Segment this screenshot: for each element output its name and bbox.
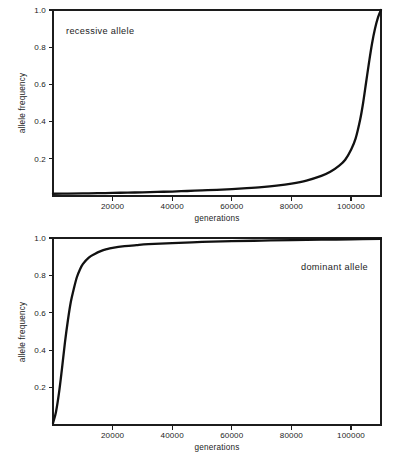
y-axis-title: allele frequency bbox=[18, 72, 27, 133]
x-axis-ticks bbox=[113, 425, 351, 430]
x-axis-title: generations bbox=[195, 214, 240, 223]
x-tick-label: 20000 bbox=[101, 202, 125, 211]
x-tick-label: 40000 bbox=[161, 431, 185, 440]
x-tick-label: 80000 bbox=[280, 431, 304, 440]
y-tick-label: 0.6 bbox=[34, 80, 46, 89]
x-tick-label: 40000 bbox=[161, 202, 185, 211]
recessive-allele-plot: 1.0 0.8 0.6 0.4 0.2 20000 40000 60000 80… bbox=[0, 0, 398, 228]
y-axis-ticks bbox=[49, 10, 54, 159]
y-tick-label: 0.8 bbox=[34, 43, 46, 52]
dominant-allele-plot: 1.0 0.8 0.6 0.4 0.2 20000 40000 60000 80… bbox=[0, 228, 398, 455]
x-tick-label: 20000 bbox=[101, 431, 125, 440]
x-tick-label: 80000 bbox=[280, 202, 304, 211]
y-tick-label: 0.8 bbox=[34, 271, 46, 280]
panel-annotation-recessive: recessive allele bbox=[66, 26, 134, 36]
x-tick-label: 60000 bbox=[220, 202, 244, 211]
y-tick-label: 1.0 bbox=[34, 234, 46, 243]
y-axis-tick-labels: 1.0 0.8 0.6 0.4 0.2 bbox=[34, 234, 46, 393]
x-tick-label: 60000 bbox=[220, 431, 244, 440]
chart-panel-recessive: 1.0 0.8 0.6 0.4 0.2 20000 40000 60000 80… bbox=[0, 0, 398, 228]
plot-frame bbox=[53, 10, 381, 196]
y-axis-tick-labels: 1.0 0.8 0.6 0.4 0.2 bbox=[34, 6, 46, 164]
x-axis-tick-labels: 20000 40000 60000 80000 100000 bbox=[101, 202, 365, 211]
x-axis-tick-labels: 20000 40000 60000 80000 100000 bbox=[101, 431, 365, 440]
y-tick-label: 0.2 bbox=[34, 155, 46, 164]
chart-panel-dominant: 1.0 0.8 0.6 0.4 0.2 20000 40000 60000 80… bbox=[0, 228, 398, 455]
allele-frequency-figure: 1.0 0.8 0.6 0.4 0.2 20000 40000 60000 80… bbox=[0, 0, 398, 455]
y-tick-label: 0.4 bbox=[34, 346, 46, 355]
y-tick-label: 0.6 bbox=[34, 309, 46, 318]
x-tick-label: 100000 bbox=[337, 202, 365, 211]
x-axis-ticks bbox=[113, 196, 351, 201]
panel-annotation-dominant: dominant allele bbox=[301, 262, 368, 272]
x-axis-title: generations bbox=[195, 443, 240, 452]
y-axis-ticks bbox=[49, 238, 54, 388]
y-tick-label: 1.0 bbox=[34, 6, 46, 15]
x-tick-label: 100000 bbox=[337, 431, 365, 440]
y-axis-title: allele frequency bbox=[18, 301, 27, 362]
y-tick-label: 0.2 bbox=[34, 383, 46, 392]
y-tick-label: 0.4 bbox=[34, 117, 46, 126]
